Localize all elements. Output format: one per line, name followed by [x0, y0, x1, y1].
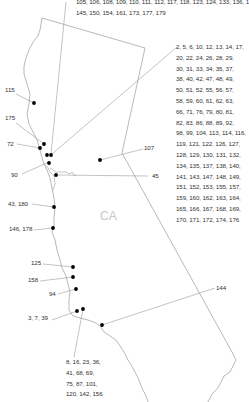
- callout-line: 170, 171, 172, 174, 176: [176, 215, 246, 226]
- dot-72[interactable]: [38, 146, 42, 150]
- callout-line: 75, 87, 101,: [66, 379, 103, 390]
- callout-line: 128, 129, 130, 131, 132,: [176, 150, 246, 161]
- dot-144[interactable]: [100, 323, 104, 327]
- bay-outline: [44, 164, 76, 190]
- dot-158[interactable]: [71, 275, 75, 279]
- callout-north-top: 105, 106, 108, 109, 110, 111, 112, 117, …: [76, 0, 249, 19]
- dot-45[interactable]: [54, 173, 58, 177]
- callout-line: 105, 106, 108, 109, 110, 111, 112, 117, …: [76, 0, 249, 8]
- callout-115: 115: [5, 85, 15, 96]
- dot-94[interactable]: [74, 287, 78, 291]
- callout-line: 8, 16, 23, 36,: [66, 357, 103, 368]
- callout-94: 94: [49, 289, 56, 300]
- dot-south-block[interactable]: [81, 307, 85, 311]
- callout-line: 50, 51, 52, 55, 56, 57,: [176, 85, 246, 96]
- callout-line: 151, 152, 153, 155, 157,: [176, 182, 246, 193]
- dot-90[interactable]: [47, 161, 51, 165]
- callout-line: 134, 135, 137, 138, 140,: [176, 161, 246, 172]
- callout-72: 72: [7, 139, 14, 150]
- dot-125[interactable]: [71, 265, 75, 269]
- location-dots: [32, 101, 104, 327]
- dot-north-top[interactable]: [45, 153, 49, 157]
- state-label: CA: [100, 209, 117, 223]
- dot-175[interactable]: [42, 142, 46, 146]
- dot-107[interactable]: [98, 158, 102, 162]
- dot-northeast-big[interactable]: [49, 153, 53, 157]
- callout-line: 145, 150, 154, 161, 173, 177, 179: [76, 8, 249, 19]
- dot-3-7-39[interactable]: [75, 309, 79, 313]
- callout-line: 20, 22, 24, 26, 28, 29,: [176, 53, 246, 64]
- callout-158: 158: [28, 275, 38, 286]
- callout-125: 125: [31, 258, 41, 269]
- callout-146-178: 146, 178: [9, 224, 32, 235]
- callout-line: 66, 71, 76, 79, 80, 81,: [176, 107, 246, 118]
- dot-43-180[interactable]: [52, 205, 56, 209]
- callout-107: 107: [144, 143, 154, 154]
- callout-northeast-big: 2, 5, 6, 10, 12, 13, 14, 17, 20, 22, 24,…: [176, 42, 246, 226]
- dot-146-178[interactable]: [51, 226, 55, 230]
- callout-43-180: 43, 180: [8, 199, 28, 210]
- callout-line: 159, 160, 162, 163, 164,: [176, 193, 246, 204]
- callout-line: 58, 59, 60, 61, 62, 63,: [176, 96, 246, 107]
- dot-115[interactable]: [32, 101, 36, 105]
- callout-3-7-39: 3, 7, 39: [28, 313, 48, 324]
- callout-south-block: 8, 16, 23, 36, 41, 68, 69, 75, 87, 101, …: [66, 357, 103, 400]
- callout-line: 30, 31, 33, 34, 35, 37,: [176, 64, 246, 75]
- callout-line: 98, 99, 104, 113, 114, 116,: [176, 128, 246, 139]
- callout-line: 82, 83, 86, 88, 89, 92,: [176, 118, 246, 129]
- callout-line: 120, 142, 156: [66, 389, 103, 400]
- callout-line: 165, 166, 167, 168, 169,: [176, 204, 246, 215]
- callout-45: 45: [152, 171, 159, 182]
- callout-line: 141, 143, 147, 148, 149,: [176, 172, 246, 183]
- callout-175: 175: [5, 113, 15, 124]
- callout-144: 144: [216, 283, 226, 294]
- callout-line: 119, 121, 122, 126, 127,: [176, 139, 246, 150]
- callout-line: 38, 40, 42, 47, 48, 49,: [176, 74, 246, 85]
- callout-90: 90: [11, 170, 18, 181]
- callout-line: 2, 5, 6, 10, 12, 13, 14, 17,: [176, 42, 246, 53]
- callout-line: 41, 68, 69,: [66, 368, 103, 379]
